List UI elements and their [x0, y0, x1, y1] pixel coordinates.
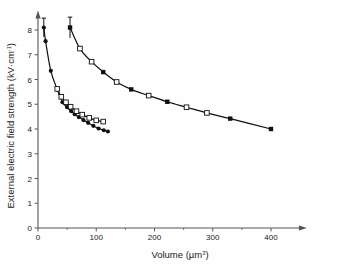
y-tick-label: 5 — [28, 100, 33, 109]
data-point-open-square — [68, 104, 73, 109]
data-point-open-square — [64, 100, 69, 105]
data-point-filled-square — [228, 116, 232, 120]
x-tick-label: 100 — [90, 233, 104, 242]
y-axis-arrow — [35, 10, 40, 18]
data-point-filled-circle — [49, 69, 53, 73]
data-point-open-square — [59, 95, 64, 100]
data-point-filled-square — [101, 70, 105, 74]
series-line-series-upper-right — [70, 28, 271, 129]
y-tick-label: 4 — [28, 125, 33, 134]
x-tick-label: 0 — [36, 233, 41, 242]
data-point-open-square — [74, 109, 79, 114]
data-point-filled-circle — [81, 118, 85, 122]
data-point-open-square — [89, 59, 94, 64]
y-tick-label: 2 — [28, 175, 33, 184]
x-tick-label: 200 — [148, 233, 162, 242]
data-point-filled-square — [165, 100, 169, 104]
data-point-open-square — [80, 112, 85, 117]
data-point-filled-circle — [43, 39, 47, 43]
data-point-open-square — [114, 80, 119, 85]
y-tick-label: 7 — [28, 51, 33, 60]
x-tick-label: 400 — [264, 233, 278, 242]
data-point-open-square — [146, 93, 151, 98]
data-point-filled-circle — [96, 126, 100, 130]
data-point-filled-square — [68, 25, 72, 29]
data-point-open-square — [55, 87, 60, 92]
x-axis-title: Volume (µm3) — [151, 249, 208, 260]
data-point-open-square — [87, 116, 92, 121]
data-point-filled-circle — [91, 124, 95, 128]
chart-canvas: 0100200300400012345678Volume (µm3)Extern… — [0, 0, 353, 278]
data-point-filled-circle — [102, 128, 106, 132]
y-tick-label: 1 — [28, 199, 33, 208]
data-point-filled-square — [129, 87, 133, 91]
data-point-filled-square — [269, 127, 273, 131]
x-tick-label: 300 — [206, 233, 220, 242]
figure-container: 0100200300400012345678Volume (µm3)Extern… — [0, 0, 353, 278]
data-point-filled-circle — [42, 25, 46, 29]
y-tick-label: 8 — [28, 26, 33, 35]
data-point-open-square — [78, 46, 83, 51]
data-point-open-square — [101, 119, 106, 124]
data-point-open-square — [205, 111, 210, 116]
data-point-filled-circle — [86, 121, 90, 125]
y-tick-label: 6 — [28, 76, 33, 85]
data-point-filled-circle — [69, 109, 73, 113]
y-tick-label: 3 — [28, 150, 33, 159]
x-axis-arrow — [299, 225, 307, 230]
y-axis-title: External electric field strength (kV·cm-… — [5, 43, 16, 209]
data-point-filled-circle — [106, 129, 110, 133]
y-tick-label: 0 — [28, 224, 33, 233]
data-point-open-square — [94, 118, 99, 123]
data-point-open-square — [184, 105, 189, 110]
